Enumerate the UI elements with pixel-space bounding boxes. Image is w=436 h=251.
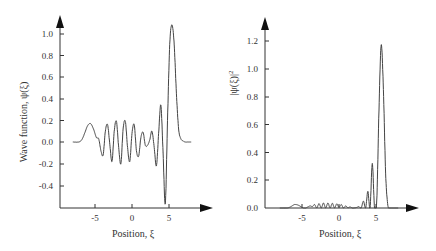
left-ytick: -0.4: [39, 181, 54, 191]
left-x-axis-title: Position, ξ: [112, 228, 155, 240]
left-ytick: 0.2: [42, 116, 53, 126]
left-xtick: 5: [167, 213, 172, 223]
right-ytick: 0.8: [247, 92, 259, 102]
right-y-axis-title: |ψ(ξ)|2: [227, 70, 240, 95]
svg-text:|ψ(ξ)|2: |ψ(ξ)|2: [227, 70, 240, 95]
right-ytick: 0.0: [247, 203, 259, 213]
right-ytick: 0.4: [247, 148, 259, 158]
right-ytick: 0.6: [247, 120, 259, 130]
left-xtick: -5: [91, 213, 99, 223]
right-ytick: 0.2: [247, 175, 258, 185]
figure: 1.0 0.8 0.6 0.4 0.2 0.0 -0.2 -0.4 -5 0 5…: [0, 0, 436, 251]
right-xtick: 0: [337, 213, 342, 223]
right-xtick: 5: [374, 213, 379, 223]
left-ytick: 0.0: [42, 137, 54, 147]
right-ytick: 1.2: [247, 36, 258, 46]
wave-function-curve: [73, 25, 191, 204]
probability-density-curve: [280, 45, 398, 208]
left-y-axis-title: Wave function, ψ(ξ): [18, 82, 30, 163]
left-ytick: 0.8: [42, 51, 54, 61]
left-ytick: -0.2: [39, 159, 53, 169]
right-y-axis-title-main: |ψ(ξ)|: [228, 74, 240, 95]
left-y-axis-arrow-icon: [56, 15, 64, 28]
right-x-axis-title: Position, ξ: [319, 228, 362, 240]
right-chart: 1.2 1.0 0.8 0.6 0.4 0.2 0.0 -5 0 5 Posit…: [227, 17, 419, 240]
left-xtick: 0: [130, 213, 135, 223]
right-xtick: -5: [298, 213, 306, 223]
left-ytick: 0.4: [42, 94, 54, 104]
right-x-axis-arrow-icon: [406, 204, 419, 212]
right-y-axis-arrow-icon: [261, 17, 269, 30]
left-ytick: 1.0: [42, 29, 54, 39]
right-y-axis-title-sup: 2: [227, 70, 235, 74]
left-ytick: 0.6: [42, 72, 54, 82]
right-ytick: 1.0: [247, 64, 259, 74]
left-chart: 1.0 0.8 0.6 0.4 0.2 0.0 -0.2 -0.4 -5 0 5…: [18, 15, 213, 240]
left-x-axis-arrow-icon: [200, 204, 213, 212]
